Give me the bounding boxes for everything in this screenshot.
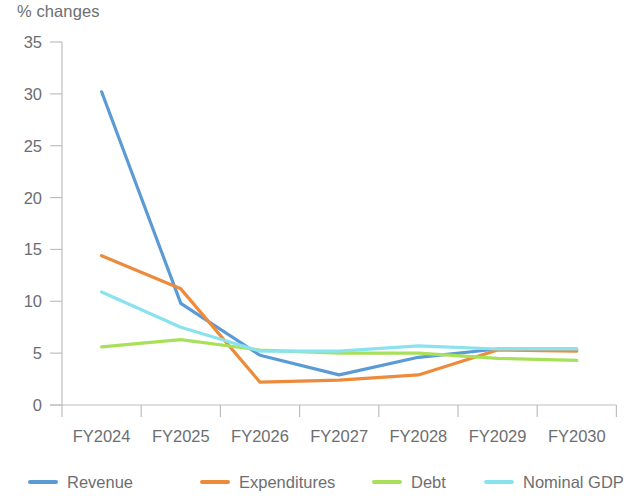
plot-area — [0, 0, 642, 470]
legend-label: Expenditures — [239, 474, 335, 491]
legend-item-debt[interactable]: Debt — [372, 470, 446, 494]
chart-legend: RevenueExpendituresDebtNominal GDP — [0, 470, 642, 496]
x-axis-tick-label: FY2025 — [136, 428, 226, 445]
y-axis-tick-label: 15 — [2, 241, 42, 258]
legend-item-expenditures[interactable]: Expenditures — [200, 470, 335, 494]
legend-swatch-icon — [372, 480, 402, 484]
x-axis-tick-label: FY2026 — [215, 428, 305, 445]
legend-label: Nominal GDP — [523, 474, 624, 491]
y-axis-tick-label: 20 — [2, 190, 42, 207]
legend-item-revenue[interactable]: Revenue — [28, 470, 133, 494]
line-chart: % changes 35302520151050 FY2024FY2025FY2… — [0, 0, 642, 496]
series-line-revenue — [102, 92, 577, 375]
legend-swatch-icon — [484, 480, 514, 484]
legend-swatch-icon — [28, 480, 58, 484]
x-axis-tick-label: FY2028 — [373, 428, 463, 445]
series-line-nominal-gdp — [102, 292, 577, 351]
x-axis-tick-label: FY2024 — [57, 428, 147, 445]
y-axis-tick-label: 25 — [2, 138, 42, 155]
series-lines — [102, 92, 577, 382]
x-axis-tick-label: FY2030 — [532, 428, 622, 445]
legend-label: Revenue — [67, 474, 133, 491]
y-axis-tick-label: 0 — [2, 397, 42, 414]
y-axis-tick-label: 35 — [2, 34, 42, 51]
y-axis-tick-label: 5 — [2, 345, 42, 362]
series-line-expenditures — [102, 256, 577, 383]
y-axis-tick-label: 30 — [2, 86, 42, 103]
legend-item-nominal-gdp[interactable]: Nominal GDP — [484, 470, 624, 494]
y-axis-tick-label: 10 — [2, 293, 42, 310]
x-axis-tick-label: FY2029 — [453, 428, 543, 445]
legend-swatch-icon — [200, 480, 230, 484]
x-axis-tick-label: FY2027 — [294, 428, 384, 445]
legend-label: Debt — [411, 474, 446, 491]
